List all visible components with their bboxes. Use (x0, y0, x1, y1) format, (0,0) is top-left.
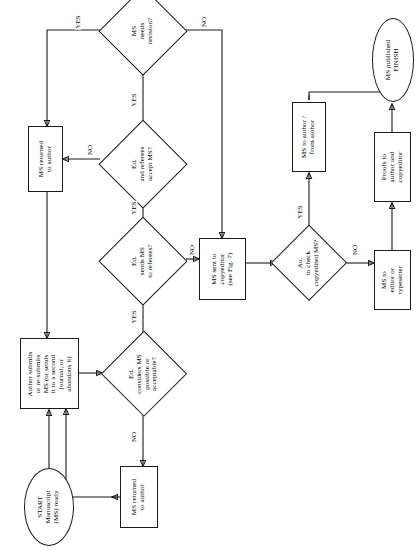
edge-label-no-accept: NO (87, 144, 94, 156)
node-finish: MS publishedFINISH (372, 18, 414, 102)
edge-label-yes-sends: YES (131, 200, 138, 215)
node-author-submits-label: Author submitsor re-submitsMS (or sendsi… (26, 351, 73, 396)
node-author-submits: Author submitsor re-submitsMS (or sendsi… (20, 338, 79, 409)
node-ms-sent-copyeditor: MS sent tocopyeditor(see Fig. 7) (199, 238, 246, 300)
node-ed-referees-accept: Ed.and refereesaccept MS? (100, 121, 186, 207)
node-ed-referees-accept-label: Ed.and refereesaccept MS? (131, 146, 154, 181)
node-proofs-label: Proofs toauthor andcopyeditor (381, 152, 404, 183)
node-ms-sent-copyeditor-label: MS sent tocopyeditor(see Fig. 7) (211, 253, 234, 286)
node-ed-considers: Ed.considers MSpossible oracceptable? (102, 332, 186, 416)
node-ed-sends-referees: Ed.sends MSto referees? (100, 218, 186, 304)
node-proofs: Proofs toauthor andcopyeditor (374, 132, 411, 202)
edge-label-yes-revision: YES (75, 14, 82, 29)
node-ms-to-from-author-label: MS to author /from author (301, 116, 317, 158)
node-au-check-copyedited: Au.to checkcopyedited MS? (272, 226, 346, 300)
node-ms-returned-bottom: MS returnedto author (120, 466, 158, 528)
node-ms-returned-top: MS returnedto author (28, 126, 63, 192)
edge-label-yes-considers: YES (131, 309, 138, 324)
edge-label-no-sends: NO (189, 244, 196, 256)
edge-label-yes-accept: YES (131, 92, 138, 107)
node-ed-considers-label: Ed.considers MSpossible oracceptable? (128, 354, 159, 394)
node-au-check-copyedited-label: Au.to checkcopyedited MS? (297, 239, 320, 286)
node-ed-sends-referees-label: Ed.sends MSto referees? (131, 244, 154, 278)
node-ms-to-editor-label: MS toeditor ortypesetter (381, 266, 404, 294)
edge-label-no-revision: NO (201, 16, 208, 28)
edge-label-no-aucheck: NO (352, 244, 359, 256)
edge-label-yes-aucheck: YES (297, 204, 304, 219)
node-start-label: STARTManuscript(MS) ready (37, 490, 60, 523)
node-start: STARTManuscript(MS) ready (24, 468, 74, 546)
node-finish-label: MS publishedFINISH (385, 40, 401, 80)
node-ms-to-from-author: MS to author /from author (292, 102, 326, 172)
node-ms-returned-top-label: MS returnedto author (38, 141, 54, 177)
edge-label-no-considers: NO (131, 431, 138, 443)
node-ms-needs-revision: MSneedsrevision? (100, 0, 186, 74)
node-ms-needs-revision-label: MSneedsrevision? (131, 18, 154, 45)
node-ms-returned-bottom-label: MS returnedto author (131, 479, 147, 515)
flowchart-canvas: STARTManuscript(MS) ready Author submits… (0, 0, 419, 550)
node-ms-to-editor: MS toeditor ortypesetter (374, 250, 411, 310)
